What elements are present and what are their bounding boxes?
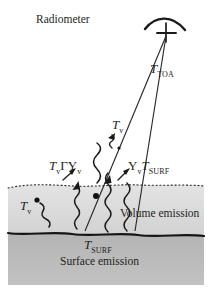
surface-emission-label: Surface emission (60, 256, 139, 268)
t-surf-bottom-subscript: SURF (91, 246, 111, 255)
radiometer-label: Radiometer (36, 14, 90, 26)
radiative-transfer-figure: Radiometer TTOA Tv TvΓΥv ΥvTSURF Tv Volu… (0, 0, 212, 292)
scatter-dot-left (34, 197, 39, 202)
t-v-mid-subscript: v (119, 126, 123, 135)
t-toa-label: TTOA (150, 62, 174, 79)
left-upsilon-symbol: Υ (68, 158, 77, 173)
t-v-left-subscript: v (27, 207, 31, 216)
right-upsilon-symbol: Υ (128, 158, 137, 173)
scatter-dot-mid (117, 146, 120, 149)
scatter-dot-upper (93, 193, 99, 199)
gamma-symbol: Γ (60, 158, 68, 173)
wavy-arrow-tv-mid (108, 133, 115, 148)
wavy-arrow-above-boundary (94, 143, 101, 183)
t-surf-bottom-label: TSURF (84, 238, 112, 255)
right-t-symbol: T (142, 158, 149, 173)
right-t-subscript: SURF (149, 167, 169, 176)
t-v-left-label: Tv (20, 199, 31, 216)
tv-gamma-upsilon-label: TvΓΥv (49, 159, 81, 176)
t-v-mid-label: Tv (112, 118, 123, 135)
t-toa-subscript: TOA (157, 70, 174, 79)
upsilon-tsurf-label: ΥvTSURF (128, 159, 169, 176)
volume-emission-label: Volume emission (120, 208, 199, 220)
left-upsilon-subscript: v (77, 167, 81, 176)
